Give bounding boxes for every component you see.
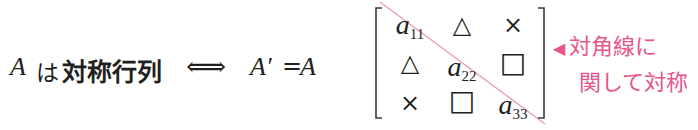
annotation: ◀対角線に 関して対称: [553, 30, 698, 100]
left-arrow-icon: ◀: [553, 39, 565, 58]
matrix-variable: A: [10, 52, 26, 82]
cell-cross: ×: [488, 10, 538, 40]
annotation-line1: ◀対角線に: [553, 30, 698, 66]
cell-triangle: △: [437, 10, 487, 40]
cell-a11: a11: [385, 10, 435, 44]
cell-triangle: △: [385, 48, 435, 78]
cell-a22: a22: [437, 52, 487, 86]
annotation-text-1: 対角線に: [569, 34, 657, 59]
iff-symbol: ⟺: [186, 50, 226, 83]
cell-square: □: [437, 86, 487, 116]
cell-a33: a33: [488, 90, 538, 124]
rhs-variable: A: [300, 52, 316, 82]
transpose-lhs: A′: [250, 52, 272, 82]
particle: は: [36, 54, 59, 88]
cell-cross: ×: [385, 88, 435, 118]
statement: A は 対称行列 ⟺ A′ = A: [0, 0, 360, 130]
matrix: a11 △ × △ a22 □ × □ a33: [370, 0, 550, 130]
cell-square: □: [488, 48, 538, 78]
annotation-line2: 関して対称: [553, 66, 698, 100]
term-symmetric-matrix: 対称行列: [62, 52, 162, 88]
